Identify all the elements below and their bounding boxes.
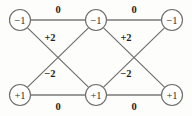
node-top-center: −1 (86, 10, 107, 31)
node-bottom-left: +1 (10, 85, 31, 106)
label-bottom-right-0: 0 (131, 101, 136, 112)
label-top-right-0: 0 (131, 4, 136, 15)
node-label-top-center: −1 (91, 15, 102, 26)
node-top-right: −1 (162, 10, 183, 31)
node-label-top-left: −1 (15, 15, 26, 26)
label-right-minus2: −2 (121, 68, 132, 79)
node-bottom-center: +1 (86, 85, 107, 106)
graph-canvas: −1−1−1+1+1+1 0000+2−2+2−2 (0, 0, 192, 116)
node-label-bottom-left: +1 (15, 90, 26, 101)
label-bottom-left-0: 0 (55, 101, 60, 112)
node-label-bottom-right: +1 (167, 90, 178, 101)
node-label-bottom-center: +1 (91, 90, 102, 101)
label-left-minus2: −2 (45, 68, 56, 79)
label-top-left-0: 0 (55, 4, 60, 15)
label-left-plus2: +2 (45, 32, 56, 43)
label-right-plus2: +2 (121, 32, 132, 43)
nodes-layer: −1−1−1+1+1+1 (10, 10, 183, 106)
node-label-top-right: −1 (167, 15, 178, 26)
graph-diagram: −1−1−1+1+1+1 0000+2−2+2−2 (0, 0, 192, 116)
node-top-left: −1 (10, 10, 31, 31)
node-bottom-right: +1 (162, 85, 183, 106)
